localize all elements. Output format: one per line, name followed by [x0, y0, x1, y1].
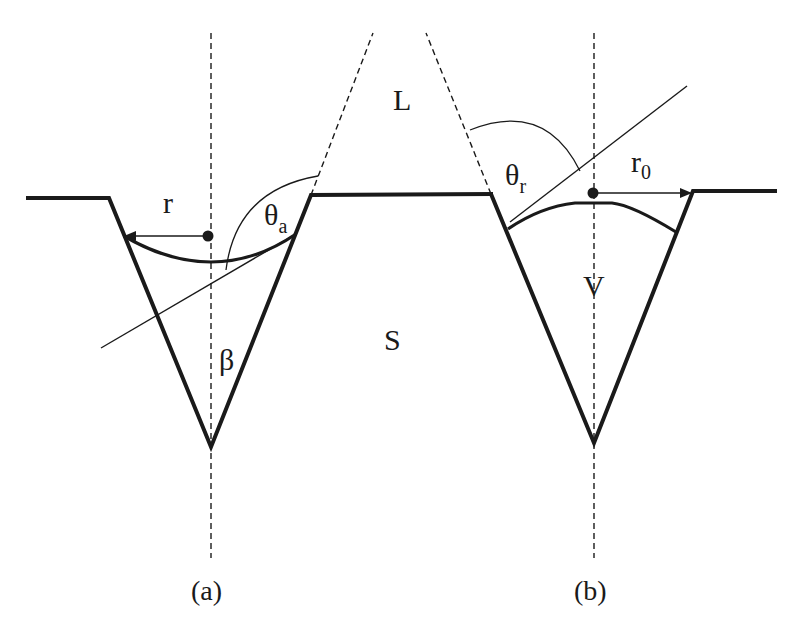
panel-b: θr r0 V (b) — [426, 33, 777, 606]
contact-angle-arc-b — [470, 121, 580, 171]
center-dot-a — [203, 231, 214, 242]
panel-a: r θa β (a) — [26, 33, 493, 606]
wall-extension-a — [311, 33, 373, 195]
surface-profile-b — [491, 191, 777, 443]
caption-a: (a) — [191, 575, 222, 606]
caption-b: (b) — [574, 575, 607, 606]
volume-label: V — [583, 269, 605, 302]
radius-label-b: r0 — [631, 145, 651, 183]
liquid-label: L — [393, 83, 411, 116]
capillary-groove-diagram: r θa β (a) θr — [0, 0, 798, 635]
solid-label: S — [384, 323, 401, 356]
cone-angle-label: β — [219, 343, 234, 376]
surface-profile-a — [26, 194, 493, 447]
meniscus-convex — [508, 203, 676, 232]
wall-extension-b — [426, 33, 491, 194]
contact-angle-label-b: θr — [505, 158, 526, 197]
radius-label-a: r — [163, 186, 173, 219]
contact-angle-label-a: θa — [264, 198, 287, 237]
